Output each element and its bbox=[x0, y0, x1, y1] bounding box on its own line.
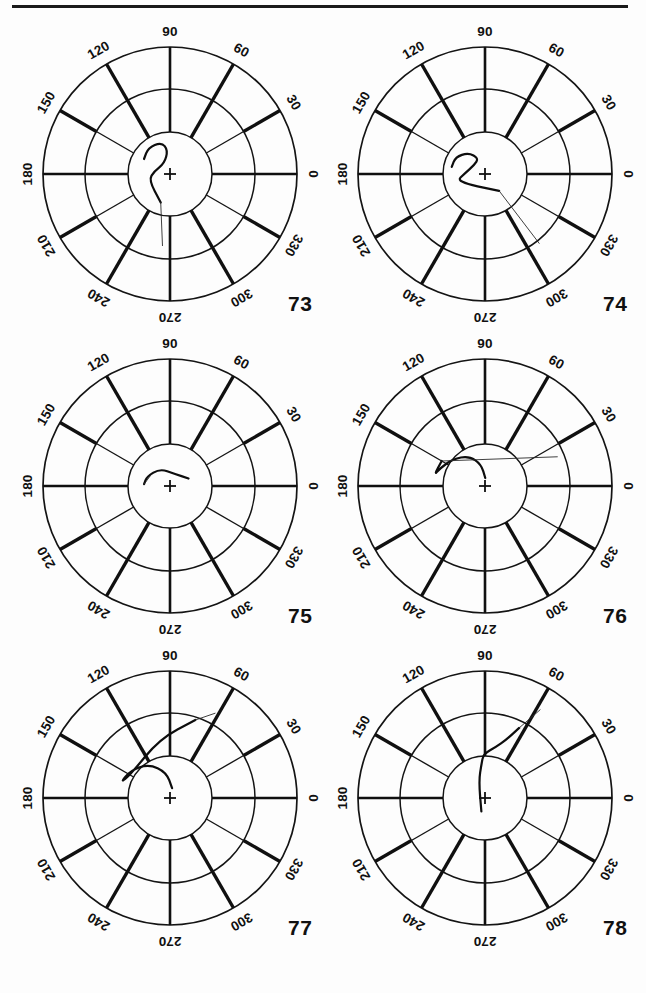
tick-label-0: 0 bbox=[621, 482, 636, 490]
tick-label-60: 60 bbox=[546, 352, 567, 373]
inner-spoke-330 bbox=[521, 819, 558, 841]
major-spoke-60 bbox=[191, 64, 234, 138]
tick-label-30: 30 bbox=[283, 716, 304, 737]
inner-spoke-210 bbox=[411, 819, 448, 841]
tick-label-0: 0 bbox=[621, 794, 636, 802]
polar-plot-svg: 0306090120150180210240270300330 bbox=[10, 648, 333, 958]
inner-spoke-30 bbox=[206, 444, 243, 466]
minor-spoke-150 bbox=[60, 423, 96, 444]
major-spoke-60 bbox=[191, 376, 234, 450]
tick-label-120: 120 bbox=[400, 38, 428, 63]
tick-label-300: 300 bbox=[228, 286, 256, 311]
tick-label-120: 120 bbox=[85, 662, 113, 687]
tick-label-30: 30 bbox=[598, 716, 619, 737]
tick-label-240: 240 bbox=[85, 598, 113, 623]
tick-label-210: 210 bbox=[34, 232, 59, 260]
minor-spoke-30 bbox=[559, 735, 595, 756]
tick-label-270: 270 bbox=[158, 310, 181, 325]
tick-label-150: 150 bbox=[34, 401, 59, 429]
polar-plot-panel: 030609012015018021024027030033076 bbox=[325, 336, 646, 646]
major-spoke-60 bbox=[191, 688, 234, 762]
tick-label-240: 240 bbox=[400, 910, 428, 935]
major-spoke-120 bbox=[107, 64, 150, 138]
major-spoke-300 bbox=[191, 210, 234, 284]
inner-spoke-330 bbox=[206, 195, 243, 217]
inner-spoke-330 bbox=[521, 507, 558, 529]
major-spoke-300 bbox=[506, 522, 549, 596]
inner-spoke-210 bbox=[96, 819, 133, 841]
tick-label-180: 180 bbox=[20, 786, 35, 809]
tick-label-90: 90 bbox=[477, 648, 492, 663]
figure-number: 76 bbox=[603, 604, 627, 628]
tick-label-330: 330 bbox=[597, 544, 622, 572]
polar-plot-panel: 030609012015018021024027030033075 bbox=[10, 336, 333, 646]
tick-label-60: 60 bbox=[546, 664, 567, 685]
tick-label-210: 210 bbox=[34, 544, 59, 572]
tick-label-0: 0 bbox=[621, 170, 636, 178]
major-spoke-60 bbox=[506, 64, 549, 138]
tick-label-150: 150 bbox=[349, 89, 374, 117]
top-rule-divider bbox=[12, 5, 628, 8]
tick-label-330: 330 bbox=[282, 856, 307, 884]
tick-label-300: 300 bbox=[543, 910, 571, 935]
tick-label-60: 60 bbox=[231, 664, 252, 685]
tick-label-0: 0 bbox=[306, 794, 321, 802]
figure-number: 74 bbox=[603, 292, 627, 316]
tick-label-60: 60 bbox=[546, 40, 567, 61]
tick-label-180: 180 bbox=[335, 474, 350, 497]
inner-spoke-150 bbox=[411, 132, 448, 154]
minor-spoke-30 bbox=[244, 111, 280, 132]
polar-plot-svg: 0306090120150180210240270300330 bbox=[10, 336, 333, 646]
data-trace bbox=[452, 154, 499, 191]
tick-label-150: 150 bbox=[34, 89, 59, 117]
major-spoke-300 bbox=[506, 834, 549, 908]
minor-spoke-30 bbox=[559, 111, 595, 132]
tick-label-60: 60 bbox=[231, 352, 252, 373]
tick-label-300: 300 bbox=[228, 598, 256, 623]
tick-label-270: 270 bbox=[473, 622, 496, 637]
minor-spoke-330 bbox=[244, 217, 280, 238]
tick-label-210: 210 bbox=[349, 544, 374, 572]
data-trace-tail bbox=[195, 713, 215, 720]
tick-label-240: 240 bbox=[85, 286, 113, 311]
tick-label-330: 330 bbox=[597, 232, 622, 260]
major-spoke-300 bbox=[191, 522, 234, 596]
minor-spoke-150 bbox=[375, 735, 411, 756]
tick-label-90: 90 bbox=[162, 648, 177, 663]
major-spoke-60 bbox=[506, 376, 549, 450]
tick-label-270: 270 bbox=[158, 622, 181, 637]
tick-label-330: 330 bbox=[282, 232, 307, 260]
tick-label-60: 60 bbox=[231, 40, 252, 61]
major-spoke-240 bbox=[422, 522, 465, 596]
major-spoke-300 bbox=[506, 210, 549, 284]
minor-spoke-330 bbox=[244, 529, 280, 550]
tick-label-270: 270 bbox=[473, 310, 496, 325]
tick-label-30: 30 bbox=[283, 92, 304, 113]
inner-spoke-150 bbox=[411, 444, 448, 466]
polar-plot-panel: 030609012015018021024027030033077 bbox=[10, 648, 333, 958]
minor-spoke-210 bbox=[60, 529, 96, 550]
inner-spoke-210 bbox=[411, 507, 448, 529]
tick-label-330: 330 bbox=[597, 856, 622, 884]
tick-label-120: 120 bbox=[85, 38, 113, 63]
tick-label-30: 30 bbox=[283, 404, 304, 425]
major-spoke-120 bbox=[107, 376, 150, 450]
figure-number: 78 bbox=[603, 916, 627, 940]
tick-label-300: 300 bbox=[228, 910, 256, 935]
tick-label-120: 120 bbox=[85, 350, 113, 375]
major-spoke-120 bbox=[422, 688, 465, 762]
tick-label-300: 300 bbox=[543, 598, 571, 623]
inner-spoke-30 bbox=[521, 132, 558, 154]
tick-label-180: 180 bbox=[335, 786, 350, 809]
major-spoke-300 bbox=[191, 834, 234, 908]
inner-spoke-150 bbox=[96, 132, 133, 154]
tick-label-90: 90 bbox=[477, 24, 492, 39]
tick-label-270: 270 bbox=[473, 934, 496, 949]
major-spoke-120 bbox=[422, 376, 465, 450]
inner-spoke-210 bbox=[96, 507, 133, 529]
tick-label-240: 240 bbox=[400, 286, 428, 311]
inner-spoke-210 bbox=[411, 195, 448, 217]
tick-label-0: 0 bbox=[306, 482, 321, 490]
minor-spoke-210 bbox=[375, 529, 411, 550]
polar-plot-svg: 0306090120150180210240270300330 bbox=[325, 648, 646, 958]
